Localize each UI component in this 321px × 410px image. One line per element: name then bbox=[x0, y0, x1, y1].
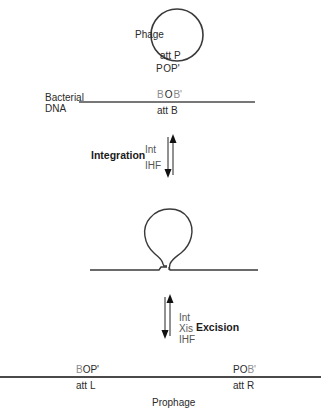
diagram-graphics bbox=[0, 0, 321, 410]
synapsis-intermediate bbox=[90, 209, 258, 270]
att-r-site-pre: P bbox=[233, 364, 240, 375]
integration-factor-ihf: IHF bbox=[145, 160, 161, 171]
excision-factor-int: Int bbox=[179, 312, 190, 323]
prophage-label: Prophage bbox=[152, 397, 195, 408]
phage-site-core: O bbox=[163, 63, 171, 74]
att-p-label: att P bbox=[160, 50, 181, 61]
excision-factor-ihf: IHF bbox=[179, 334, 195, 345]
phage-site-pre: P bbox=[156, 63, 163, 74]
bacterial-dna-label-line2: DNA bbox=[45, 103, 66, 114]
integration-label: Integration bbox=[91, 150, 145, 161]
att-l-site-post: P' bbox=[90, 364, 99, 375]
bacterial-site-post: B' bbox=[173, 89, 182, 100]
att-r-label: att R bbox=[233, 380, 254, 391]
bacterial-site-pre: B bbox=[157, 89, 164, 100]
att-r-site-post: B' bbox=[247, 364, 256, 375]
integration-arrows-icon bbox=[165, 134, 177, 178]
att-l-site-sequence: BOP' bbox=[76, 364, 99, 375]
bacterial-dna-label-line1: Bacterial bbox=[45, 92, 84, 103]
excision-factor-xis: Xis bbox=[179, 323, 193, 334]
att-b-label: att B bbox=[157, 105, 178, 116]
att-l-site-pre: B bbox=[76, 364, 83, 375]
phage-site-sequence: P OP' bbox=[156, 63, 180, 74]
excision-label: Excision bbox=[196, 322, 239, 333]
excision-arrows-icon bbox=[162, 294, 174, 339]
integration-factor-int: Int bbox=[145, 144, 156, 155]
phage-label: Phage bbox=[135, 29, 164, 40]
bacterial-site-core: O bbox=[165, 89, 173, 100]
bacterial-site-sequence: BOB' bbox=[157, 89, 182, 100]
att-l-label: att L bbox=[76, 380, 95, 391]
att-r-site-sequence: POB' bbox=[233, 364, 256, 375]
phage-site-post: P' bbox=[171, 63, 180, 74]
